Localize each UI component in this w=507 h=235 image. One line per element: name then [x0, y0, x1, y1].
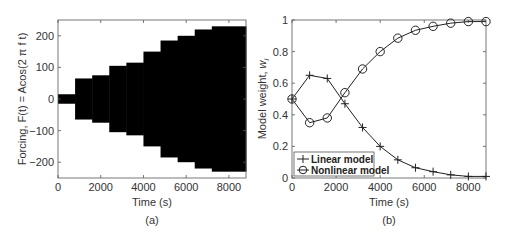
y-tick-label: 100 — [36, 61, 54, 73]
forcing-step-4 — [126, 63, 144, 136]
x-tick-label: 6000 — [174, 181, 198, 193]
panel-label-b: (b) — [382, 214, 395, 226]
x-tick-label: 0 — [55, 181, 61, 193]
forcing-step-2 — [92, 75, 110, 122]
x-axis-label-b: Time (s) — [369, 196, 409, 208]
x-tick-label: 2000 — [88, 181, 112, 193]
panel-a-forcing-chart: 02000400060008000 −200−1000100200 Time (… — [16, 20, 247, 226]
forcing-step-7 — [178, 36, 196, 162]
forcing-envelope — [58, 26, 247, 171]
y-tick-label: −100 — [29, 125, 54, 137]
figure: 02000400060008000 −200−1000100200 Time (… — [0, 0, 507, 235]
x-tick-label: 8000 — [217, 181, 241, 193]
y-axis-label-a: Forcing, F(t) = Acos(2 π f t) — [16, 33, 28, 166]
forcing-step-8 — [195, 29, 213, 168]
legend-entry-label: Linear model — [311, 154, 373, 165]
series-line-nonlinear — [292, 22, 486, 123]
y-tick-label: 0.4 — [273, 109, 288, 121]
forcing-step-9 — [212, 26, 247, 171]
y-tick-label: −200 — [29, 156, 54, 168]
y-tick-label: 0.8 — [273, 46, 288, 58]
x-axis-label-a: Time (s) — [132, 196, 172, 208]
y-tick-label: 0 — [282, 172, 288, 184]
legend: Linear modelNonlinear model — [294, 152, 390, 176]
forcing-step-5 — [143, 52, 161, 147]
x-tick-label: 0 — [289, 181, 295, 193]
forcing-step-6 — [161, 41, 179, 158]
y-tick-label: 200 — [36, 30, 54, 42]
x-tick-label: 2000 — [324, 181, 348, 193]
x-tick-label: 4000 — [368, 181, 392, 193]
y-tick-label: 0.2 — [273, 140, 288, 152]
y-tick-label: 0.6 — [273, 77, 288, 89]
y-axis-label-b: Model weight, wi — [256, 58, 271, 139]
x-tick-label: 6000 — [412, 181, 436, 193]
y-tick-label: 1 — [282, 14, 288, 26]
forcing-step-3 — [109, 66, 127, 132]
x-tick-label: 8000 — [456, 181, 480, 193]
panel-label-a: (a) — [145, 214, 158, 226]
legend-entry-label: Nonlinear model — [311, 165, 390, 176]
x-tick-label: 4000 — [131, 181, 155, 193]
forcing-step-1 — [75, 78, 93, 119]
panel-b-model-weight-chart: 02000400060008000 00.20.40.60.81 Linear … — [256, 14, 490, 226]
y-tick-label: 0 — [48, 93, 54, 105]
